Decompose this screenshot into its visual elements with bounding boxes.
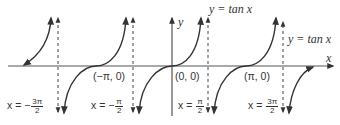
point-label-neg-pi: (−π, 0) — [93, 71, 125, 82]
point-label-zero: (0, 0) — [175, 71, 200, 82]
function-label-right: y = tan x — [288, 33, 331, 45]
curve-branch-left — [24, 18, 51, 65]
asymptote-label-neg-3pi-2: x = −3π2 — [7, 98, 43, 115]
y-axis-label: y — [178, 16, 183, 28]
asymptote-label-neg-pi-2: x = −π2 — [91, 98, 123, 115]
tan-graph — [0, 0, 340, 125]
point-label-pi: (π, 0) — [244, 71, 270, 82]
asymptote-label-pi-2: x = π2 — [178, 98, 204, 115]
asymptote-label-3pi-2: x = 3π2 — [248, 98, 278, 115]
curve-branch-right — [289, 67, 313, 113]
x-axis-label: x — [326, 52, 331, 64]
function-label-top: y = tan x — [209, 3, 252, 15]
